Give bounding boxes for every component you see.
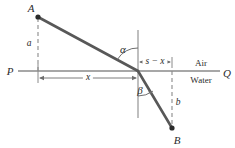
refraction-diagram: A B P Q α β a b x s − x Air Water [0,0,235,148]
interface-left-label: P [7,66,14,77]
point-b-marker [169,125,174,130]
medium-water-label: Water [190,76,211,85]
dimension-x-arrow-left [39,76,44,80]
interface-right-label: Q [223,68,231,79]
dimension-x-arrow-right [132,76,137,80]
angle-alpha-label: α [120,44,126,55]
angle-beta-label: β [137,85,142,96]
dimension-x-label: x [83,73,93,83]
medium-air-label: Air [195,59,207,68]
point-a-label: A [28,3,35,14]
dimension-s-minus-x-label: s − x [142,57,167,67]
dimension-a-label: a [27,39,32,49]
point-a-marker [35,14,40,19]
dimension-b-label: b [176,98,181,108]
point-b-label: B [174,135,181,146]
refracted-ray [138,71,172,128]
